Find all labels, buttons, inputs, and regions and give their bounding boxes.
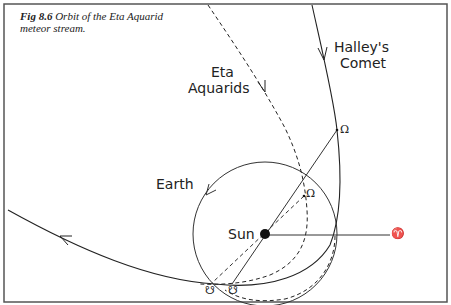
eta-aquarid-orbit: [200, 5, 307, 284]
node-point: [303, 195, 306, 198]
label-halley-line1: Halley's: [334, 40, 389, 55]
vernal-equinox-symbol: ♈: [391, 227, 405, 240]
label-eta-line2: Aquarids: [188, 81, 250, 96]
figure-caption: Fig 8.6 Orbit of the Eta Aquarid meteor …: [20, 10, 180, 34]
ascending-node-stream-symbol: Ω: [306, 187, 315, 200]
node-point: [336, 129, 339, 132]
label-halley-line2: Comet: [340, 56, 386, 71]
label-eta-line1: Eta: [211, 65, 234, 80]
descending-node-stream-symbol: ☋: [205, 284, 215, 297]
comet-line-of-nodes: [232, 130, 337, 284]
halley-comet-orbit: [8, 5, 340, 285]
ascending-node-comet-symbol: Ω: [340, 123, 349, 136]
sun-icon: [260, 229, 270, 239]
stream-line-of-nodes: [212, 196, 304, 283]
figure-number: Fig 8.6: [20, 10, 52, 22]
eta-direction-arrow-icon: [258, 80, 265, 92]
eta-aquarid-orbit-lower: [225, 236, 335, 301]
descending-node-comet-symbol: ☋: [228, 284, 238, 297]
label-earth: Earth: [156, 177, 194, 192]
label-sun: Sun: [228, 227, 255, 242]
